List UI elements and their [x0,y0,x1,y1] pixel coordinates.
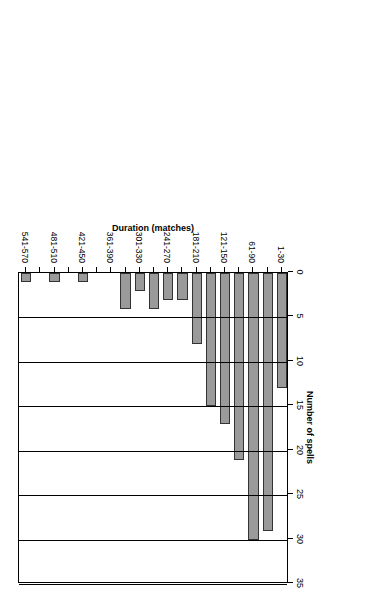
bar-series [19,273,287,582]
value-axis-tick [288,538,293,539]
bar-row [220,273,230,584]
category-axis-tick [110,267,111,272]
bar [49,273,59,282]
bar-row [277,273,287,584]
value-axis-tick-label: 20 [295,445,305,455]
value-axis-tick-label: 10 [295,356,305,366]
bar-row [263,273,273,584]
category-axis-tick [181,267,182,272]
category-axis-tick [25,267,26,272]
category-axis-tick-label: 541-570 [20,232,30,263]
category-axis-tick-label: 301-330 [134,232,144,263]
category-axis-tick [224,267,225,272]
bar-row [149,273,159,584]
category-axis-tick-label: 1-30 [276,246,286,263]
value-axis-tick-label: 25 [295,489,305,499]
bar-row [135,273,145,584]
category-axis-tick [82,267,83,272]
gridline [19,406,287,407]
category-axis-tick [54,267,55,272]
category-axis-tick [167,267,168,272]
gridline [19,584,287,585]
bar [263,273,273,531]
bar-row [248,273,258,584]
bar [135,273,145,291]
gridline [19,362,287,363]
bar-row [206,273,216,584]
category-axis-tick [68,267,69,272]
category-axis-tick-label: 241-270 [162,232,172,263]
value-axis-tick-label: 15 [295,400,305,410]
bar [192,273,202,344]
plot-wrapper: 05101520253035 Number of spells 1-3061-9… [0,0,371,605]
value-axis-tick [288,271,293,272]
category-axis-tick [252,267,253,272]
bar-row [177,273,187,584]
category-axis-tick [139,267,140,272]
gridline [19,495,287,496]
category-axis-tick [238,267,239,272]
bar-row [78,273,88,584]
value-axis-tick-label: 35 [295,578,305,588]
bar [120,273,130,309]
bar [220,273,230,424]
category-axis-tick [39,267,40,272]
value-axis-tick-label: 0 [295,269,305,274]
category-axis-tick [267,267,268,272]
category-axis-title: Duration (matches) [18,221,288,235]
bar-row [192,273,202,584]
value-axis-tick-label: 5 [295,314,305,319]
bar-row [163,273,173,584]
category-axis-tick-label: 421-450 [77,232,87,263]
bar [149,273,159,309]
value-axis-tick [288,582,293,583]
bar [177,273,187,300]
value-axis-tick-label: 30 [295,534,305,544]
category-axis-tick [281,267,282,272]
gridline [19,540,287,541]
bar-chart-figure: 05101520253035 Number of spells 1-3061-9… [0,0,371,605]
value-axis-tick [288,360,293,361]
bar-row [120,273,130,584]
bar-row [21,273,31,584]
bar [163,273,173,300]
value-axis-title: Number of spells [305,272,315,583]
category-axis-tick-label: 481-510 [49,232,59,263]
category-axis-tick [153,267,154,272]
category-axis-title-text: Duration (matches) [112,223,194,233]
gridline [19,451,287,452]
category-axis-tick [210,267,211,272]
gridline [19,317,287,318]
category-axis-tick [96,267,97,272]
bar-row [234,273,244,584]
category-axis-tick [196,267,197,272]
value-axis-tick [288,404,293,405]
category-axis-tick-label: 121-150 [219,232,229,263]
plot-area [18,272,288,583]
value-axis-tick [288,493,293,494]
bar-row [49,273,59,584]
bar [21,273,31,282]
bar [206,273,216,406]
category-axis-tick-label: 181-210 [191,232,201,263]
bar [78,273,88,282]
category-axis-tick [125,267,126,272]
category-axis-tick-label: 61-90 [247,241,257,263]
value-axis-tick [288,449,293,450]
bar [234,273,244,460]
value-axis-tick [288,315,293,316]
bar [277,273,287,389]
category-axis-tick-label: 361-390 [105,232,115,263]
